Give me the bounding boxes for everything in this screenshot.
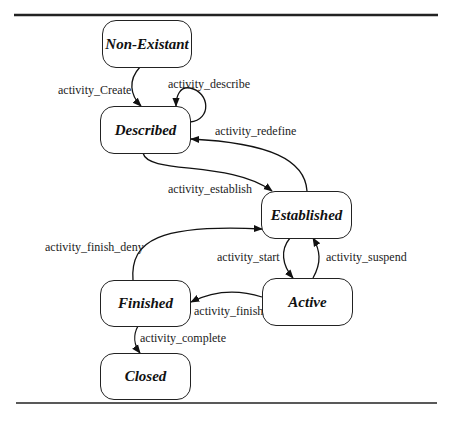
state-established: Established — [261, 191, 352, 239]
label-create: activity_Create — [58, 83, 131, 98]
label-redefine: activity_redefine — [215, 124, 296, 139]
label-complete: activity_complete — [140, 331, 226, 346]
state-described: Described — [100, 106, 191, 154]
state-non-existant: Non-Existant — [102, 20, 192, 68]
edge-suspend — [313, 238, 319, 278]
label-start: activity_start — [217, 250, 280, 265]
label-suspend: activity_suspend — [326, 250, 407, 265]
state-closed: Closed — [100, 353, 191, 400]
edge-create — [132, 67, 141, 106]
label-finish-deny: activity_finish_deny — [45, 240, 144, 255]
label-describe: activity_describe — [168, 77, 250, 92]
label-establish: activity_establish — [168, 182, 252, 197]
state-active: Active — [262, 278, 353, 326]
label-finish: activity_finish — [194, 304, 263, 319]
edge-finish — [191, 292, 262, 302]
edge-start — [284, 238, 293, 278]
diagram-edges — [0, 0, 451, 423]
state-finished: Finished — [100, 280, 191, 327]
